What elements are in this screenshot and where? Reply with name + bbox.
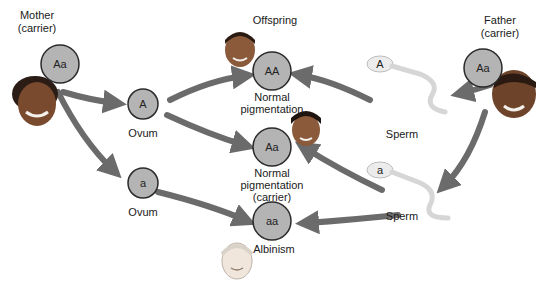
offspring-aa-line1: Albinism xyxy=(253,243,295,255)
mother-genotype: Aa xyxy=(53,58,66,70)
offspring-Aa-line1: Normal xyxy=(254,167,289,179)
arrow-ovum-A-to-AA xyxy=(170,76,244,100)
ovum-a-allele: a xyxy=(140,177,146,189)
offspring-AA-line2: pigmentation xyxy=(241,103,304,115)
arrow-mother-to-ovum-A xyxy=(63,92,115,103)
father-label: Father xyxy=(484,14,516,26)
arrow-father-to-sperm-a xyxy=(445,112,485,185)
sperm-a-label: Sperm xyxy=(386,210,418,222)
ovum-A-label: Ovum xyxy=(128,127,157,139)
sperm-A-label: Sperm xyxy=(386,128,418,140)
offspring-aa-genotype: aa xyxy=(266,215,278,227)
offspring-AA-line1: Normal xyxy=(254,91,289,103)
albinism-inheritance-diagram: Mother (carrier) Father (carrier) Aa Aa … xyxy=(0,0,541,286)
child-face-icon xyxy=(225,32,255,67)
ovum-A-allele: A xyxy=(139,98,146,110)
sperm-A-allele: A xyxy=(376,58,383,70)
arrow-ovum-a-to-aa xyxy=(158,192,245,220)
mother-face-icon xyxy=(12,76,58,126)
sperm-a-allele: a xyxy=(377,164,383,176)
child-face-icon xyxy=(291,111,321,146)
arrow-sperm-A-to-AA xyxy=(300,75,370,100)
child-face-icon xyxy=(222,243,252,279)
offspring-Aa-genotype: Aa xyxy=(265,141,278,153)
father-sublabel: (carrier) xyxy=(481,27,520,39)
arrow-sperm-a-to-aa xyxy=(307,215,398,223)
arrow-ovum-A-to-Aa xyxy=(167,115,244,145)
offspring-AA-genotype: AA xyxy=(265,65,280,77)
offspring-Aa-line3: (carrier) xyxy=(253,191,292,203)
father-genotype: Aa xyxy=(476,62,489,74)
offspring-Aa-line2: pigmentation xyxy=(241,179,304,191)
mother-sublabel: (carrier) xyxy=(18,22,57,34)
ovum-a-label: Ovum xyxy=(128,206,157,218)
offspring-heading: Offspring xyxy=(253,14,297,26)
mother-label: Mother xyxy=(20,9,54,21)
